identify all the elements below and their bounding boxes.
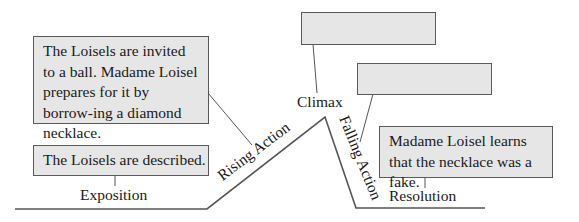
exposition-box-text: The Loisels are described. (43, 151, 206, 168)
exposition-box: The Loisels are described. (33, 145, 209, 176)
falling-action-connector (360, 94, 373, 142)
climax-box (301, 12, 436, 45)
climax-label: Climax (297, 93, 343, 111)
climax-connector (313, 44, 317, 93)
resolution-box: Madame Loisel learns that the necklace w… (379, 126, 553, 178)
rising-action-box: The Loisels are invited to a ball. Madam… (33, 36, 209, 124)
falling-action-box (357, 63, 492, 95)
exposition-label: Exposition (80, 186, 147, 204)
rising-action-connector (208, 93, 252, 145)
resolution-label: Resolution (389, 187, 456, 205)
